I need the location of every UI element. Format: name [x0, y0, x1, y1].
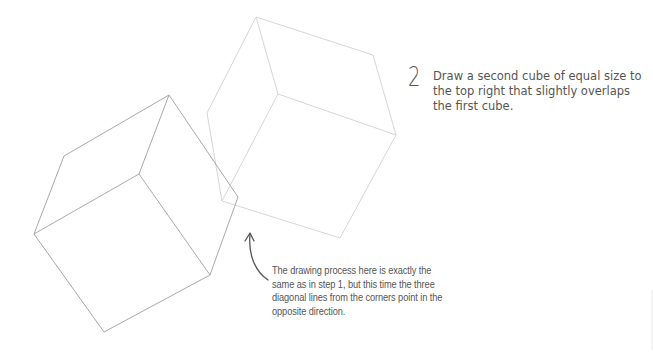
- step-number: 2: [408, 62, 420, 92]
- step-instruction: Draw a second cube of equal size to the …: [433, 69, 643, 114]
- first-cube: [34, 95, 238, 332]
- annotation-text: The drawing process here is exactly the …: [272, 264, 448, 318]
- curved-up-arrow-icon: [245, 233, 268, 280]
